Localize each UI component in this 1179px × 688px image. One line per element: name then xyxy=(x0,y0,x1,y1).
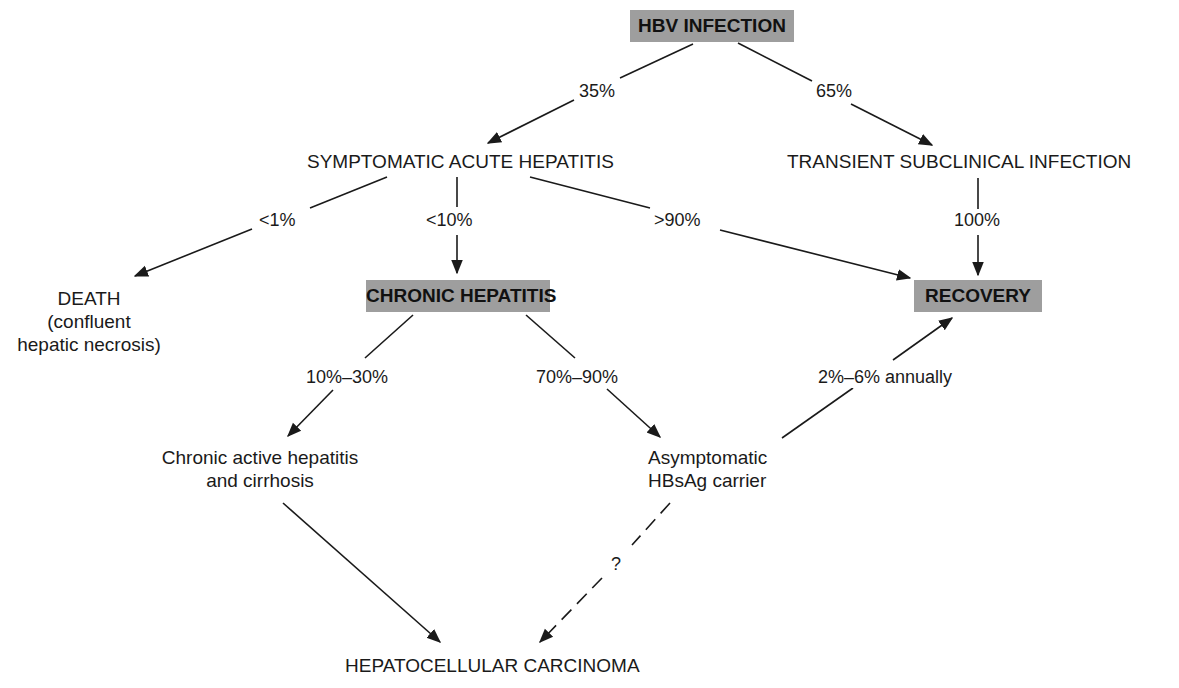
death-line2: (confluent xyxy=(14,310,164,333)
node-asymptomatic-carrier: Asymptomatic HBsAg carrier xyxy=(648,446,767,492)
node-symptomatic-acute-hepatitis: SYMPTOMATIC ACUTE HEPATITIS xyxy=(307,150,614,173)
node-transient-subclinical-infection: TRANSIENT SUBCLINICAL INFECTION xyxy=(787,150,1131,173)
edge-active-to-hcc xyxy=(283,503,440,642)
chronic-active-line2: and cirrhosis xyxy=(145,469,375,492)
node-hbv-infection: HBV INFECTION xyxy=(630,10,794,42)
edge-chronic-to-active xyxy=(365,315,413,358)
node-chronic-hepatitis: CHRONIC HEPATITIS xyxy=(366,280,550,312)
edge-carrier-to-recovery xyxy=(782,388,853,438)
death-line3: hepatic necrosis) xyxy=(14,333,164,356)
edge-carrier-to-hcc-dashed xyxy=(632,503,670,545)
chronic-active-line1: Chronic active hepatitis xyxy=(145,446,375,469)
diagram-edges xyxy=(0,0,1179,688)
edge-label-lt1: <1% xyxy=(257,209,298,231)
node-chronic-active-hepatitis: Chronic active hepatitis and cirrhosis xyxy=(145,446,375,492)
edge-label-70-90: 70%–90% xyxy=(534,366,620,388)
carrier-line1: Asymptomatic xyxy=(648,446,767,469)
edge-label-2-6-annually: 2%–6% annually xyxy=(816,366,954,388)
edge-label-35: 35% xyxy=(577,80,617,102)
node-hepatocellular-carcinoma: HEPATOCELLULAR CARCINOMA xyxy=(345,654,640,677)
edge-hbv-to-symptomatic xyxy=(620,44,693,78)
node-recovery: RECOVERY xyxy=(914,280,1042,312)
node-death: DEATH (confluent hepatic necrosis) xyxy=(14,287,164,356)
edge-symptomatic-to-recovery xyxy=(530,177,650,208)
edge-label-gt90: >90% xyxy=(652,209,703,231)
carrier-line2: HBsAg carrier xyxy=(648,469,767,492)
edge-symptomatic-to-death xyxy=(310,177,387,208)
edge-label-lt10: <10% xyxy=(424,209,475,231)
death-line1: DEATH xyxy=(14,287,164,310)
edge-label-question: ? xyxy=(609,553,623,575)
edge-hbv-to-transient xyxy=(738,43,812,81)
edge-label-10-30: 10%–30% xyxy=(304,366,390,388)
edge-label-100: 100% xyxy=(952,209,1002,231)
edge-label-65: 65% xyxy=(814,80,854,102)
edge-chronic-to-carrier xyxy=(526,315,575,358)
